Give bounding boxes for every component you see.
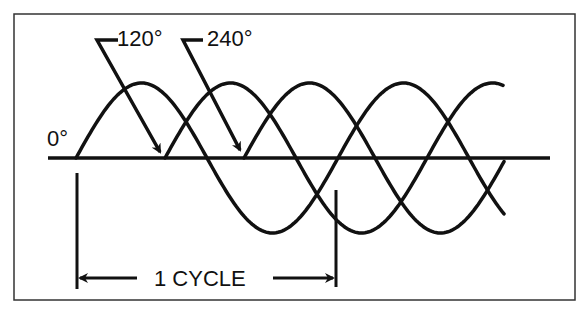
three-phase-diagram: 0° 120° 240° 1 CYCLE — [0, 0, 587, 316]
cycle-dimension: 1 CYCLE — [77, 173, 336, 291]
label-240-degrees: 240° — [207, 26, 253, 51]
label-zero-degrees: 0° — [47, 126, 68, 151]
label-120-degrees: 120° — [117, 26, 163, 51]
label-one-cycle: 1 CYCLE — [154, 266, 246, 291]
callout-120: 120° — [97, 26, 163, 152]
